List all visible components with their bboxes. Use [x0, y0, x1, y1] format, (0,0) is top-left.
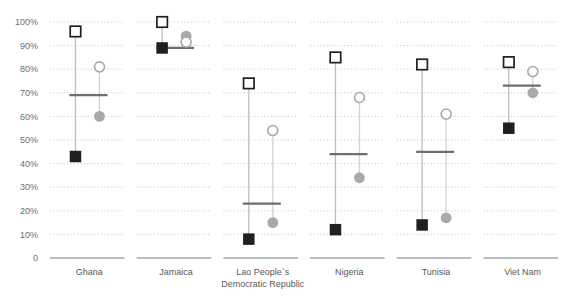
marker-filled-square: [503, 122, 515, 134]
connector-lines: [69, 22, 540, 239]
chart-svg: 100%90%80%70%60%50%40%30%20%10%0 GhanaJa…: [0, 0, 569, 299]
marker-open-circle: [441, 109, 451, 119]
x-axis-category-label: Lao PeopleˋsDemocratic Republic: [221, 267, 305, 289]
chart-container: 100%90%80%70%60%50%40%30%20%10%0 GhanaJa…: [0, 0, 569, 299]
y-axis-tick-label: 70%: [20, 88, 38, 98]
marker-open-square: [417, 59, 428, 69]
x-axis-category-labels: GhanaJamaicaLao PeopleˋsDemocratic Repub…: [76, 267, 541, 289]
y-axis-tick-labels: 100%90%80%70%60%50%40%30%20%10%0: [15, 17, 38, 263]
marker-filled-circle: [267, 217, 278, 228]
marker-filled-square: [416, 219, 428, 231]
marker-filled-square: [330, 224, 342, 236]
x-axis-category-label: Tunisia: [422, 267, 451, 277]
y-axis-tick-label: 20%: [20, 206, 38, 216]
marker-open-square: [70, 26, 81, 37]
marker-open-circle: [181, 37, 191, 47]
y-axis-tick-label: 30%: [20, 182, 38, 192]
marker-filled-circle: [354, 172, 365, 183]
gridlines-group: [50, 22, 558, 234]
marker-filled-square: [70, 151, 82, 163]
marker-open-square: [157, 17, 168, 28]
marker-open-square: [504, 57, 515, 67]
marker-open-square: [244, 78, 255, 89]
y-axis-tick-label: 60%: [20, 112, 38, 122]
marker-filled-square: [243, 233, 255, 245]
y-axis-tick-label: 100%: [15, 17, 38, 27]
marker-open-square: [330, 52, 341, 63]
data-markers: [70, 17, 538, 245]
y-axis-tick-label: 90%: [20, 41, 38, 51]
y-axis-tick-label: 0: [33, 253, 38, 263]
marker-filled-circle: [527, 87, 538, 98]
y-axis-tick-label: 50%: [20, 135, 38, 145]
marker-filled-circle: [441, 212, 452, 223]
marker-open-circle: [268, 126, 278, 136]
marker-open-circle: [94, 62, 104, 72]
marker-open-circle: [354, 93, 364, 103]
y-axis-tick-label: 40%: [20, 159, 38, 169]
y-axis-tick-label: 10%: [20, 230, 38, 240]
x-axis-category-label: Viet Nam: [504, 267, 541, 277]
marker-filled-circle: [94, 111, 105, 122]
x-axis-category-label: Ghana: [76, 267, 103, 277]
y-axis-tick-label: 80%: [20, 64, 38, 74]
x-axis-category-label: Jamaica: [159, 267, 193, 277]
x-axis-category-label: Nigeria: [335, 267, 364, 277]
marker-filled-square: [156, 42, 168, 54]
marker-open-circle: [528, 67, 538, 77]
